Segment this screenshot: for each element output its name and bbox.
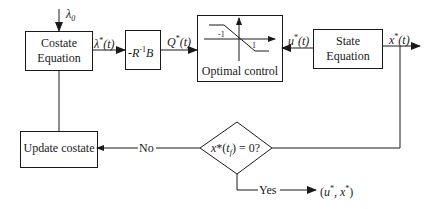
diagram-canvas — [0, 0, 434, 209]
state-equation-label: State Equation — [313, 34, 383, 64]
no-branch-label: No — [139, 141, 154, 155]
sat-tick-pos: 1 — [252, 41, 256, 50]
u-star-label: u*(t) — [288, 31, 309, 48]
state-line2: Equation — [313, 49, 383, 64]
optimal-control-label: Optimal control — [197, 64, 283, 79]
decision-label: x*(tf) = 0? — [211, 141, 260, 160]
lambda-star-label: λ*(t) — [94, 34, 115, 51]
output-label: (u*, x*) — [320, 182, 353, 199]
costate-line1: Costate — [25, 36, 93, 51]
sat-tick-neg: -1 — [218, 30, 225, 39]
lambda0-label: λ0 — [66, 7, 75, 26]
costate-line2: Equation — [25, 51, 93, 66]
yes-branch-label: Yes — [259, 183, 276, 197]
yes-branch-line — [237, 174, 258, 190]
costate-equation-label: Costate Equation — [25, 36, 93, 66]
x-star-label: x*(t) — [389, 30, 410, 47]
q-star-label: Q*(t) — [167, 32, 191, 49]
update-costate-label: Update costate — [20, 141, 98, 156]
gain-block-label: -R-1B — [128, 43, 153, 60]
state-line1: State — [313, 34, 383, 49]
